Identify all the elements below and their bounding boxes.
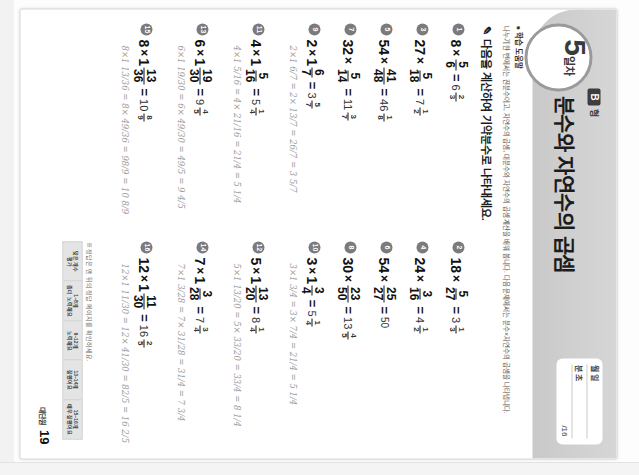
multiply-sign: ×	[377, 57, 391, 64]
instruction-text: 다음을 계산하여 기약분수로 나타내세요.	[479, 39, 495, 221]
answer: 313	[448, 317, 465, 335]
fraction: 12	[412, 325, 429, 333]
equals-sign: =	[341, 88, 356, 96]
fraction-numerator: 19	[200, 67, 213, 84]
fraction-numerator: 3	[200, 325, 209, 333]
problem-item: 732×514=1137	[329, 24, 365, 228]
fraction: 18	[376, 113, 393, 121]
fraction-denominator: 2	[412, 325, 420, 333]
multiplicand: 4	[248, 40, 264, 48]
fraction-denominator: 5	[192, 107, 200, 115]
fraction-numerator: 2	[144, 339, 153, 347]
multiply-sign: ×	[137, 275, 151, 282]
answer-whole: 11	[342, 99, 354, 110]
answer: 945	[192, 99, 209, 117]
fraction-numerator: 4	[200, 107, 209, 115]
equals-sign: =	[305, 82, 320, 90]
problem-expression: 6×11930=945	[188, 40, 217, 228]
fraction-numerator: 5	[312, 101, 321, 109]
problem-number: 8	[345, 242, 357, 254]
problem-item: 424×316=412	[401, 242, 437, 446]
answer-whole: 9	[194, 99, 206, 105]
multiply-sign: ×	[137, 49, 151, 56]
fraction-denominator: 4	[300, 285, 312, 296]
fraction-numerator: 5	[348, 70, 361, 81]
handwritten-work: 8×1 13/36 = 8× 49/36 = 98/9 = 10 8/9	[120, 40, 130, 228]
answer-whole: 10	[138, 99, 150, 111]
fraction-denominator: 27	[372, 285, 384, 302]
handwritten-work: 6×1 19/30 = 6× 49/30 = 49/5 = 9 4/5	[176, 40, 186, 228]
fraction: 45	[340, 331, 357, 339]
mixed-whole: 1	[304, 58, 320, 66]
equals-sign: =	[449, 306, 464, 314]
fraction-numerator: 1	[456, 325, 465, 333]
fraction: 316	[408, 285, 433, 302]
evaluation-key-strip: ※ 정답은 맨 뒤의 정답 페이지를 확인하세요. 맞은 개수평가1~8개좀더 …	[63, 242, 95, 440]
workbook-page: 5 일차 B 형 분수와 자연수의 곱셈 월 일 분 초	[20, 9, 618, 460]
fraction: 1130	[132, 293, 157, 310]
answer-whole: 13	[342, 317, 354, 329]
scan-edge-left	[0, 0, 14, 475]
equals-sign: =	[413, 88, 428, 96]
multiplicand: 5	[248, 258, 264, 266]
problem-item: 92×167=3572×1 6/7 = 2× 13/7 = 26/7 = 3 5…	[273, 24, 329, 228]
answer-whole: 8	[250, 317, 262, 323]
fraction-denominator: 48	[372, 67, 384, 84]
equals-sign: =	[193, 306, 208, 314]
answer: 712	[412, 99, 429, 117]
problem-item: 103×134=5143×1 3/4 = 3× 7/4 = 21/4 = 5 1…	[273, 242, 329, 446]
fraction-numerator: 1	[420, 325, 429, 333]
handwritten-work: 7×1 3/28 = 7× 31/28 = 31/4 = 7 3/4	[176, 258, 186, 446]
handwritten-work: 2×1 6/7 = 2× 13/7 = 26/7 = 3 5/7	[288, 40, 298, 228]
fraction-denominator: 16	[244, 67, 256, 84]
fraction-denominator: 27	[444, 285, 456, 302]
fraction-numerator: 1	[420, 107, 429, 115]
answer-whole: 5	[250, 99, 262, 105]
fraction: 34	[192, 325, 209, 333]
score-key: 월 일	[590, 365, 601, 391]
fraction-numerator: 5	[456, 288, 469, 299]
multiply-sign: ×	[249, 267, 263, 274]
multiplicand: 54	[376, 258, 392, 274]
score-row: /16	[556, 365, 571, 439]
type-letter: B	[588, 89, 601, 106]
answer: 1137	[340, 99, 357, 122]
problem-item: 147×1328=7347×1 3/28 = 7× 31/28 = 31/4 =…	[161, 242, 217, 446]
fraction-denominator: 36	[132, 67, 144, 84]
fraction-numerator: 5	[256, 70, 269, 81]
equals-sign: =	[377, 306, 392, 314]
fraction-denominator: 3	[448, 93, 456, 101]
problem-item: 136×11930=9456×1 19/30 = 6× 49/30 = 49/5…	[161, 24, 217, 228]
equals-sign: =	[305, 300, 320, 308]
fraction-denominator: 5	[340, 331, 348, 339]
equals-sign: =	[249, 88, 264, 96]
fraction-numerator: 5	[456, 59, 469, 70]
notice-body: 나누기 한 번에서는 진분수이고, 자연수의 곱셈, 대분수와 자연수의 곱셈 …	[501, 26, 510, 442]
fraction: 45	[192, 107, 209, 115]
problem-number: 5	[381, 24, 393, 36]
problem-expression: 54×4148=4618	[372, 40, 401, 228]
evaluation-value-cell: 좀더 노력해요	[67, 285, 73, 316]
evaluation-header-cell: 15~16개매우 잘했어요	[64, 400, 83, 438]
rotated-page-wrapper: 5 일차 B 형 분수와 자연수의 곱셈 월 일 분 초	[18, 8, 618, 463]
multiply-sign: ×	[449, 49, 463, 56]
fraction-numerator: 8	[144, 113, 153, 121]
problem-expression: 24×316=412	[408, 258, 437, 446]
fraction: 4148	[372, 67, 397, 84]
answer-whole: 7	[414, 99, 426, 105]
fraction-denominator: 6	[444, 59, 456, 70]
multiply-sign: ×	[341, 275, 355, 282]
fraction-denominator: 7	[340, 112, 348, 120]
evaluation-value-cell: 노력해요	[67, 331, 73, 351]
problem-item: 218×527=313	[437, 242, 473, 446]
answer: 623	[448, 85, 465, 103]
problem-number: 9	[309, 24, 321, 36]
problem-number: 3	[417, 24, 429, 36]
problem-expression: 32×514=1137	[336, 40, 365, 228]
mixed-whole: 1	[136, 284, 152, 292]
problem-item: 158×11336=10898×1 13/36 = 8× 49/36 = 98/…	[105, 24, 161, 228]
problem-number: 1	[453, 24, 465, 36]
fraction-denominator: 2	[412, 107, 420, 115]
problem-number: 15	[141, 24, 153, 36]
answer: 4618	[376, 99, 393, 123]
